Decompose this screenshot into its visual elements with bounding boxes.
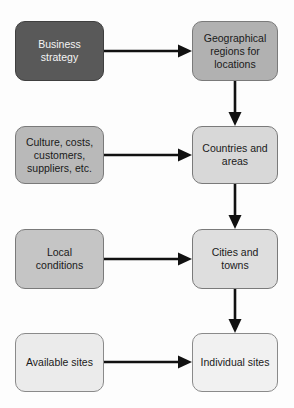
flowchart-canvas: Business strategy Culture, costs, custom…: [0, 0, 294, 408]
node-business-strategy: Business strategy: [15, 21, 104, 81]
arrow-available-to-individual: [104, 356, 192, 369]
arrow-culture-to-countries: [104, 149, 192, 162]
node-countries-areas-label: Countries and areas: [202, 142, 267, 168]
node-individual-sites: Individual sites: [192, 333, 278, 392]
arrow-regions-to-countries: [229, 81, 242, 126]
node-countries-areas: Countries and areas: [192, 126, 278, 184]
node-local-conditions-label: Local conditions: [36, 246, 83, 272]
arrow-countries-to-cities: [229, 184, 242, 229]
node-available-sites-label: Available sites: [26, 356, 93, 369]
node-cities-towns: Cities and towns: [192, 229, 278, 289]
node-culture-costs: Culture, costs, customers, suppliers, et…: [15, 126, 104, 184]
arrow-business-to-regions: [104, 45, 192, 58]
arrow-cities-to-individual: [229, 289, 242, 333]
node-cities-towns-label: Cities and towns: [212, 246, 259, 272]
node-geographical-regions: Geographical regions for locations: [192, 21, 278, 81]
node-available-sites: Available sites: [15, 333, 104, 392]
node-individual-sites-label: Individual sites: [201, 356, 270, 369]
node-business-strategy-label: Business strategy: [38, 38, 81, 64]
node-geographical-regions-label: Geographical regions for locations: [204, 32, 266, 71]
node-local-conditions: Local conditions: [15, 229, 104, 289]
arrow-local-to-cities: [104, 253, 192, 266]
node-culture-costs-label: Culture, costs, customers, suppliers, et…: [26, 136, 93, 175]
